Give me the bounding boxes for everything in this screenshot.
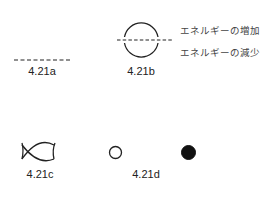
filled-circle-icon [182, 146, 196, 160]
annotation-energy-decrease: エネルギーの減少 [180, 45, 260, 59]
figure-label-4-21c: 4.21c [27, 168, 54, 180]
crossing-arcs-icon [22, 142, 55, 160]
circle-with-dashed-axis-icon [117, 23, 173, 57]
figure-label-4-21d: 4.21d [132, 168, 160, 180]
open-circle-icon [110, 147, 122, 159]
annotation-energy-increase: エネルギーの増加 [180, 23, 260, 37]
figure-label-4-21b: 4.21b [127, 65, 155, 77]
figure-label-4-21a: 4.21a [28, 65, 56, 77]
